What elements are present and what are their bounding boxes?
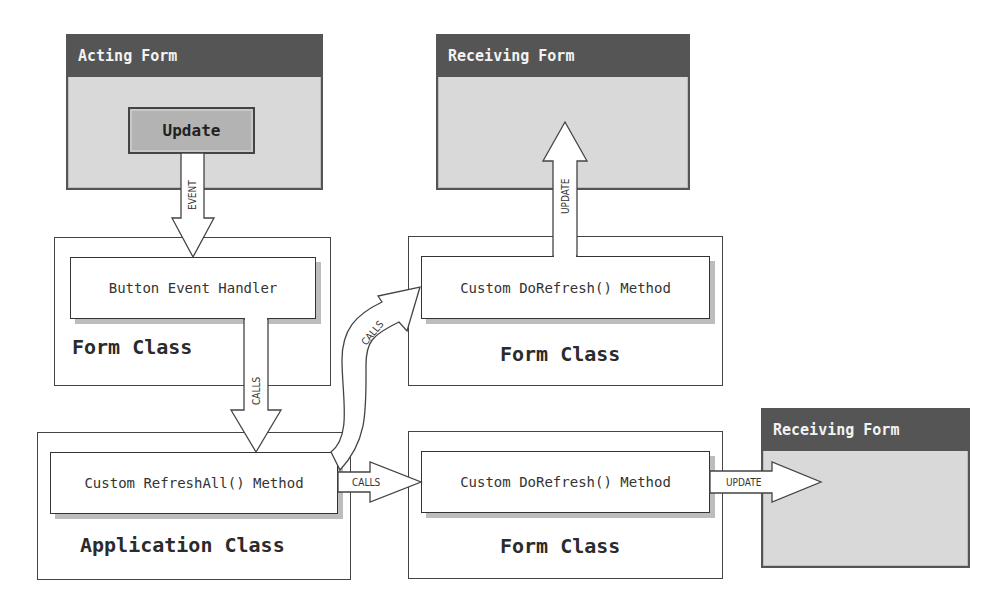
- arrows-layer: EVENT CALLS UPDATE CALLS UPDATE CALLS: [0, 0, 998, 602]
- calls-curved-arrow-icon: [331, 287, 420, 470]
- calls-right-arrow-label: CALLS: [352, 477, 380, 488]
- update-right-arrow-label: UPDATE: [726, 477, 762, 488]
- update-up-arrow-label: UPDATE: [560, 178, 571, 214]
- event-arrow-label: EVENT: [187, 180, 198, 210]
- calls-down-arrow-label: CALLS: [251, 377, 262, 405]
